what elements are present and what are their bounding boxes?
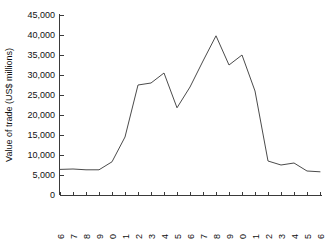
x-tick-label: 2002 [134,234,144,239]
y-tick-label: 15,000 [27,130,55,140]
line-chart: Value of trade (US$ millions) 05,00010,0… [0,0,330,239]
x-tick-label: 2007 [199,234,209,239]
chart-container: Value of trade (US$ millions) 05,00010,0… [0,0,330,239]
x-tick-label: 1996 [56,234,66,239]
x-tick-label: 2001 [121,234,131,239]
y-tick-label: 35,000 [27,50,55,60]
x-tick-label: 2006 [186,234,196,239]
x-tick-label: 2005 [173,234,183,239]
y-tick-label: 20,000 [27,110,55,120]
x-tick-label: 2009 [225,234,235,239]
x-tick-label: 2014 [290,234,300,239]
y-tick-label: 45,000 [27,10,55,20]
y-tick-mark-group [60,16,64,196]
x-tick-label: 2015 [303,234,313,239]
y-axis-title: Value of trade (US$ millions) [4,48,14,162]
x-tick-label: 1999 [95,234,105,239]
y-tick-label: 25,000 [27,90,55,100]
data-series-line [60,36,320,172]
x-tick-label: 2016 [316,234,326,239]
y-axis-title-group: Value of trade (US$ millions) [4,48,14,162]
y-tick-label: 0 [50,190,55,200]
x-tick-label: 2010 [238,234,248,239]
x-tick-label: 1997 [69,234,79,239]
y-tick-label: 40,000 [27,30,55,40]
y-tick-label: 10,000 [27,150,55,160]
x-tick-label: 2011 [251,234,261,239]
x-tick-label: 2013 [277,234,287,239]
y-tick-label: 5,000 [32,170,55,180]
x-tick-label: 2003 [147,234,157,239]
x-tick-label-group: 1996199719981999200020012002200320042005… [56,234,326,239]
y-tick-label: 30,000 [27,70,55,80]
x-tick-mark-group [61,192,321,196]
x-tick-label: 1998 [82,234,92,239]
x-tick-label: 2008 [212,234,222,239]
x-tick-label: 2012 [264,234,274,239]
y-tick-label-group: 05,00010,00015,00020,00025,00030,00035,0… [27,10,55,200]
x-tick-label: 2004 [160,234,170,239]
x-tick-label: 2000 [108,234,118,239]
